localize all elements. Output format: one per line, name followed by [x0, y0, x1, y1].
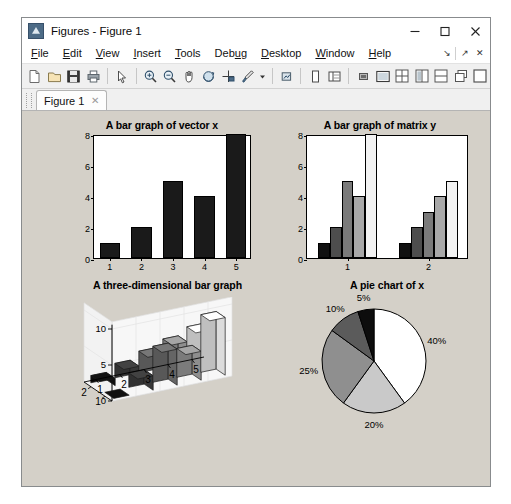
close-panel-icon[interactable]: ✕ — [473, 44, 486, 63]
menu-view-rest: iew — [103, 47, 120, 59]
undock-arrow-icon[interactable]: ↗ — [458, 44, 471, 63]
toolbar-divider-3 — [272, 68, 273, 84]
print-figure-icon[interactable] — [85, 67, 103, 86]
rotate-3d-icon[interactable] — [200, 67, 218, 86]
data-cursor-icon[interactable] — [220, 67, 238, 86]
pie-label-3: 25% — [299, 365, 318, 376]
menubar-divider — [455, 47, 456, 60]
maximize-button[interactable] — [430, 18, 460, 44]
menu-window-mnemonic: W — [315, 47, 325, 59]
x-tick-label: 5 — [193, 364, 199, 375]
pie-label-1: 40% — [427, 335, 446, 346]
menubar-right-controls: ↘ ↗ ✕ — [440, 44, 490, 63]
z-tick-label: 10 — [95, 323, 106, 334]
tabstrip-grip[interactable] — [26, 93, 32, 108]
y-tick-mark — [304, 260, 307, 261]
x-tick-mark — [429, 258, 430, 261]
show-plot-tools-icon[interactable] — [374, 67, 392, 86]
menu-insert[interactable]: Insert — [126, 44, 168, 63]
tab-figure-1-label: Figure 1 — [44, 95, 84, 107]
y-tick-mark — [91, 198, 94, 199]
property-editor-icon[interactable] — [354, 67, 372, 86]
y-tick-label: 6 — [85, 162, 90, 172]
y-tick-label: 8 — [298, 131, 303, 141]
toolbar-divider — [107, 68, 108, 84]
y-tick-label: 1 — [95, 396, 101, 407]
cascade-icon[interactable] — [452, 67, 470, 86]
menu-desktop-rest: esktop — [269, 47, 301, 59]
plot-browser-icon[interactable] — [326, 67, 344, 86]
x-tick-mark — [348, 258, 349, 261]
bar-group1-col3 — [342, 181, 354, 259]
brush-data-icon[interactable] — [239, 67, 257, 86]
y-tick-mark — [304, 198, 307, 199]
menu-debug[interactable]: Debug — [208, 44, 254, 63]
bar3-cube-x5-y1-side — [216, 312, 225, 376]
bar-5 — [226, 134, 246, 258]
bar-3 — [163, 181, 183, 259]
bar-group2-col3 — [423, 212, 435, 259]
tab-figure-1[interactable]: Figure 1 ✕ — [36, 90, 107, 110]
menu-help-rest: elp — [377, 47, 392, 59]
y-tick-mark — [91, 229, 94, 230]
menu-edit[interactable]: Edit — [56, 44, 89, 63]
figure-palette-icon[interactable] — [306, 67, 324, 86]
y-tick-mark — [304, 167, 307, 168]
tile-grid-icon[interactable] — [393, 67, 411, 86]
tile-horizontal-icon[interactable] — [432, 67, 450, 86]
edit-plot-arrow-icon[interactable] — [113, 67, 131, 86]
menu-help-mnemonic: H — [369, 47, 377, 59]
menu-debug-rest: g — [241, 47, 247, 59]
bar-group2-col5 — [446, 181, 458, 259]
pie-label-5: 5% — [357, 292, 371, 303]
y-tick-label: 2 — [81, 387, 87, 398]
single-pane-icon[interactable] — [472, 67, 490, 86]
menu-view[interactable]: View — [89, 44, 127, 63]
axes-bar-matrix-y: 0246812 — [306, 135, 468, 259]
menu-insert-rest: nsert — [136, 47, 160, 59]
figures-window: Figures - Figure 1 File Edit View Insert… — [21, 17, 491, 487]
x-tick-mark — [205, 258, 206, 261]
menubar: File Edit View Insert Tools Debug Deskto… — [22, 44, 490, 64]
menu-window[interactable]: Window — [308, 44, 361, 63]
close-tab-icon[interactable]: ✕ — [91, 95, 99, 106]
subplot-pie-of-x: A pie chart of x 40%20%25%10%5% — [292, 279, 482, 435]
menu-tools[interactable]: Tools — [168, 44, 208, 63]
close-button[interactable] — [460, 18, 490, 44]
minimize-button[interactable] — [400, 18, 430, 44]
y-tick-label: 4 — [85, 193, 90, 203]
menu-help[interactable]: Help — [362, 44, 399, 63]
chart-title-pie: A pie chart of x — [292, 279, 482, 291]
link-plot-icon[interactable] — [278, 67, 296, 86]
pan-hand-icon[interactable] — [181, 67, 199, 86]
tile-vertical-icon[interactable] — [413, 67, 431, 86]
menu-file-mnemonic: F — [31, 47, 38, 59]
zoom-out-icon[interactable] — [161, 67, 179, 86]
x-tick-label: 1 — [107, 262, 112, 272]
brush-dropdown-icon[interactable] — [259, 67, 267, 86]
axes-bar3-three-dimensional: 05101234512 — [60, 297, 275, 429]
x-tick-mark — [110, 258, 111, 261]
y-tick-label: 2 — [85, 224, 90, 234]
menu-file[interactable]: File — [24, 44, 56, 63]
subplot-bar-matrix-y: A bar graph of matrix y 0246812 — [280, 119, 480, 259]
figure-canvas: A bar graph of vector x 0246812345 A bar… — [22, 111, 490, 486]
y-tick-label: 0 — [85, 255, 90, 265]
y-tick-mark — [91, 260, 94, 261]
y-tick-label: 6 — [298, 162, 303, 172]
save-figure-icon[interactable] — [65, 67, 83, 86]
figure-toolbar — [22, 64, 490, 89]
figure-tabstrip: Figure 1 ✕ — [22, 89, 490, 111]
toolbar-divider-2 — [136, 68, 137, 84]
dock-arrow-icon[interactable]: ↘ — [440, 44, 453, 63]
new-figure-icon[interactable] — [26, 67, 44, 86]
axes-bar-vector-x: 0246812345 — [93, 135, 251, 259]
zoom-in-icon[interactable] — [142, 67, 160, 86]
window-title: Figures - Figure 1 — [51, 25, 142, 37]
bar3-cube-x5-y1-front — [201, 312, 216, 373]
bar-group2-col2 — [411, 227, 423, 258]
menu-desktop[interactable]: Desktop — [254, 44, 308, 63]
open-file-icon[interactable] — [46, 67, 64, 86]
x-tick-label: 3 — [170, 262, 175, 272]
y-tick-mark — [304, 229, 307, 230]
